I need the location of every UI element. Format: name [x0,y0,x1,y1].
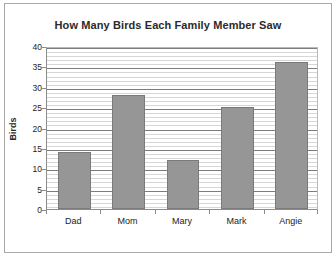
x-axis-tick-labels: DadMomMaryMarkAngie [46,216,318,232]
y-axis-tick-label: 20 [2,124,42,134]
bar-mom [112,95,145,209]
y-axis-tick-label: 15 [2,144,42,154]
x-axis-tick-label: Mark [226,216,246,226]
y-axis-tick-label: 40 [2,42,42,52]
x-axis-tick-mark [46,210,47,214]
y-axis-tick-label: 0 [2,205,42,215]
bar-mary [167,160,200,209]
bar-dad [58,152,91,209]
y-axis-tick-label: 10 [2,164,42,174]
bar-chart-figure: How Many Birds Each Family Member Saw Bi… [0,0,336,257]
x-axis-tick-mark [264,210,265,214]
x-axis-tick-mark [209,210,210,214]
x-axis-tick-label: Mom [118,216,138,226]
x-axis-tick-mark [100,210,101,214]
x-axis-tick-mark [317,210,318,214]
y-axis-tick-label: 30 [2,83,42,93]
y-axis-tick-label: 35 [2,62,42,72]
bar-slot [156,48,210,209]
x-axis-tick-label: Dad [65,216,82,226]
x-axis-tick-marks [46,210,318,215]
bar-slot [101,48,155,209]
bar-slot [210,48,264,209]
bar-angie [275,62,308,209]
x-axis-tick-label: Angie [279,216,302,226]
plot-area [46,47,318,210]
x-axis-tick-label: Mary [172,216,192,226]
bar-mark [221,107,254,209]
chart-title: How Many Birds Each Family Member Saw [0,19,336,31]
bar-slot [47,48,101,209]
x-axis-tick-mark [155,210,156,214]
y-axis-tick-label: 5 [2,185,42,195]
bar-slot [265,48,318,209]
y-axis-tick-label: 25 [2,103,42,113]
y-axis-tick-labels: 0510152025303540 [0,47,42,210]
